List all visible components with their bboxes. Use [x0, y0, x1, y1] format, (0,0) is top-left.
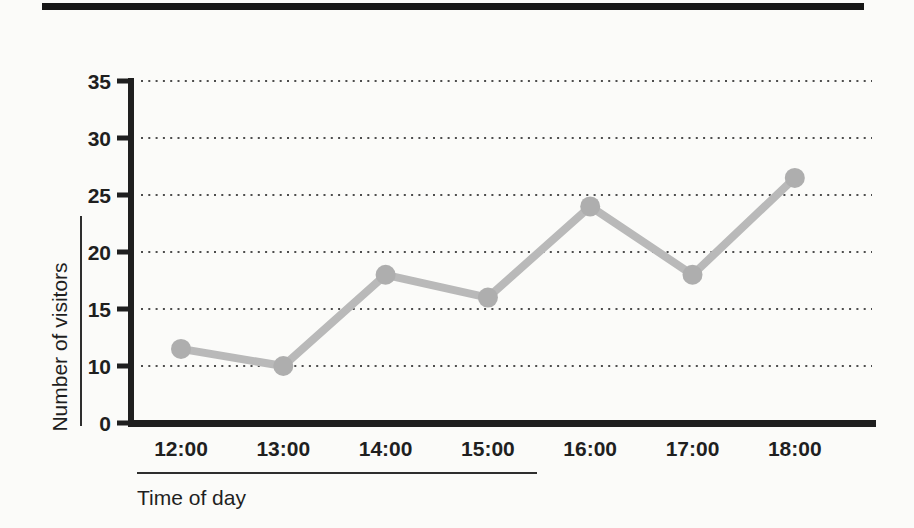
- data-point-1200: [171, 339, 191, 359]
- y-tick-label-30: 30: [88, 127, 111, 150]
- y-tick-label-20: 20: [88, 241, 111, 264]
- x-axis-title-rule: [137, 472, 537, 474]
- y-tick-label-35: 35: [88, 70, 112, 93]
- chart-plot-area: 010152025303512:0013:0014:0015:0016:0017…: [0, 0, 914, 528]
- data-point-1500: [478, 288, 498, 308]
- y-tick-35: [117, 79, 130, 84]
- y-tick-30: [117, 136, 130, 141]
- y-tick-25: [117, 193, 130, 198]
- y-axis-title-rule: [80, 216, 82, 426]
- data-point-1600: [580, 196, 600, 216]
- y-tick-20: [117, 250, 130, 255]
- y-tick-label-15: 15: [88, 298, 112, 321]
- visitors-line-series: [181, 178, 795, 366]
- data-point-1800: [785, 168, 805, 188]
- x-tick-label-1400: 14:00: [359, 437, 413, 460]
- x-tick-label-1700: 17:00: [666, 437, 720, 460]
- x-tick-label-1200: 12:00: [154, 437, 208, 460]
- x-tick-label-1300: 13:00: [256, 437, 310, 460]
- y-tick-label-25: 25: [88, 184, 112, 207]
- y-tick-label-10: 10: [88, 355, 111, 378]
- x-tick-label-1600: 16:00: [563, 437, 617, 460]
- x-axis-line: [128, 420, 876, 427]
- y-tick-15: [117, 307, 130, 312]
- y-tick-0: [117, 421, 130, 426]
- x-axis-title: Time of day: [137, 486, 246, 510]
- data-point-1700: [683, 265, 703, 285]
- data-point-1300: [273, 356, 293, 376]
- x-tick-label-1800: 18:00: [768, 437, 822, 460]
- data-point-1400: [376, 265, 396, 285]
- x-tick-label-1500: 15:00: [461, 437, 515, 460]
- y-axis-title: Number of visitors: [47, 252, 73, 442]
- scanned-page: 010152025303512:0013:0014:0015:0016:0017…: [0, 0, 914, 528]
- y-tick-10: [117, 364, 130, 369]
- y-tick-label-0: 0: [99, 412, 111, 435]
